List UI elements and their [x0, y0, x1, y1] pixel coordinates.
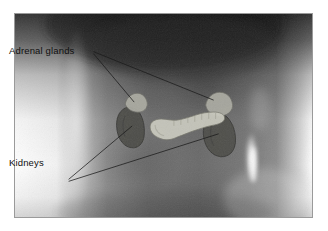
figure-root: Adrenal glands Kidneys — [0, 0, 328, 231]
label-kidneys: Kidneys — [9, 157, 44, 168]
radiograph-plate — [14, 13, 313, 218]
label-adrenal-glands: Adrenal glands — [9, 45, 74, 56]
